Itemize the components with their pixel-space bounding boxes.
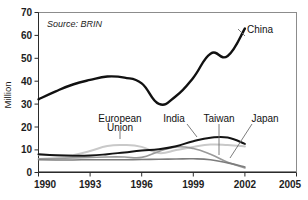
x-tick-label-1993: 1993 [79,179,102,190]
x-tick-label-1999: 1999 [182,179,205,190]
x-tick-label-1990: 1990 [34,179,57,190]
y-tick-label-70: 70 [21,7,33,18]
chart-figure: pg g p p 70 60 50 40 [0,0,308,200]
line-chart-svg: 70 60 50 40 30 20 10 0 Million 1990 1993… [0,0,308,200]
y-tick-label-0: 0 [26,167,32,178]
y-tick-label-60: 60 [21,30,33,41]
y-tick-label-10: 10 [21,144,33,155]
x-tick-label-1996: 1996 [131,179,154,190]
y-tick-label-50: 50 [21,53,33,64]
series-label-india: India [163,113,185,124]
series-label-japan: Japan [251,113,278,124]
series-label-china: China [247,24,274,35]
series-label-taiwan: Taiwan [203,113,234,124]
x-tick-label-2002: 2002 [234,179,257,190]
y-tick-label-40: 40 [21,76,33,87]
y-tick-label-30: 30 [21,99,33,110]
chart-canvas: 70 60 50 40 30 20 10 0 Million 1990 1993… [0,0,308,200]
y-tick-label-20: 20 [21,122,33,133]
y-axis-title: Million [2,82,13,109]
source-note: Source: BRIN [47,19,103,29]
series-label-european-union-line2: Union [107,122,133,133]
x-tick-label-2005: 2005 [279,179,302,190]
